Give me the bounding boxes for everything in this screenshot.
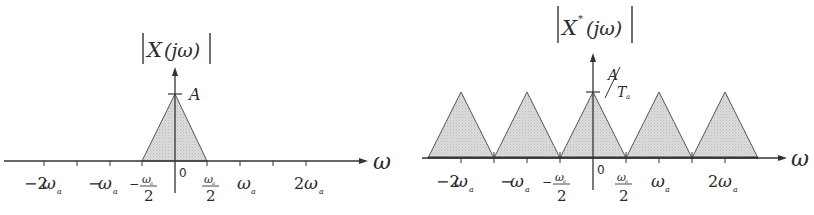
svg-text:ω: ω [651,171,665,191]
replica-triangle-minus-2wa [428,92,494,158]
svg-text:a: a [469,185,474,194]
tick-label-2wa: 2 ω a [708,171,738,194]
tick-label-wa: ω a [237,173,256,196]
svg-text:a: a [319,187,324,196]
left-plot-title: X (jω) [143,33,210,64]
tick-label-minus-wa: − ω a [88,173,118,196]
tick-label-minus-wa-half: − ω a 2 [542,171,570,205]
tick-label-minus-wa-half: − ω a 2 [129,173,157,205]
svg-text:a: a [212,180,215,186]
svg-text:ω: ω [718,171,732,191]
tick-label-wa-half: ω a 2 [615,171,632,205]
svg-text:2: 2 [708,172,718,191]
right-x-axis-label: ω [791,146,809,171]
tick-label-minus-wa: − ω a [500,171,530,194]
svg-text:a: a [57,187,62,196]
spectrum-diagram: X (jω) ω A 0 −2 ω [0,0,814,215]
tick-label-minus-2wa: −2 ω a [436,171,474,194]
svg-text:a: a [625,178,628,184]
right-title-arg: (jω) [586,17,622,39]
svg-text:ω: ω [42,173,56,193]
right-origin-label: 0 [597,163,605,177]
left-title-arg: (jω) [164,39,200,61]
svg-text:a: a [525,185,530,194]
svg-text:a: a [626,93,630,101]
left-origin-label: 0 [179,166,187,180]
replica-triangle-minus-wa [494,92,560,158]
left-peak-label: A [187,85,201,104]
svg-text:a: a [733,185,738,194]
svg-text:a: a [251,187,256,196]
svg-text:−: − [542,175,552,189]
tick-label-wa: ω a [651,171,670,194]
right-peak-label: A T a [605,67,630,101]
right-title-sup: * [578,13,583,24]
svg-text:2: 2 [144,187,154,205]
left-plot: X (jω) ω A 0 −2 ω [4,33,391,205]
left-y-arrow-icon [172,67,178,76]
left-tick-labels: −2 ω a − ω a − ω a 2 ω a 2 [24,173,324,205]
left-x-arrow-icon [359,158,368,164]
tick-label-minus-2wa: −2 ω a [24,173,62,196]
svg-text:a: a [563,178,566,184]
tick-label-wa-half: ω a 2 [202,173,219,205]
right-tick-labels: −2 ω a − ω a − ω a 2 ω a 2 [436,171,738,205]
svg-text:a: a [665,185,670,194]
svg-text:a: a [113,187,118,196]
svg-text:ω: ω [98,173,112,193]
svg-text:ω: ω [237,173,251,193]
svg-text:ω: ω [304,173,318,193]
svg-text:2: 2 [619,187,629,205]
svg-text:−: − [129,177,139,191]
svg-text:ω: ω [510,171,524,191]
right-title-main: X [560,16,578,40]
svg-text:ω: ω [454,171,468,191]
svg-text:a: a [150,180,153,186]
right-x-arrow-icon [778,155,787,161]
svg-text:2: 2 [557,187,567,205]
right-plot-title: X * (jω) [558,6,632,43]
left-title-main: X [145,38,163,62]
replica-triangle-wa [626,92,692,158]
replica-triangle-2wa [692,92,758,158]
svg-text:2: 2 [206,187,216,205]
svg-text:2: 2 [294,174,304,193]
right-plot: X * (jω) ω A T a 0 [422,6,809,205]
tick-label-2wa: 2 ω a [294,173,324,196]
right-y-arrow-icon [590,53,596,62]
left-x-axis-label: ω [373,149,391,174]
